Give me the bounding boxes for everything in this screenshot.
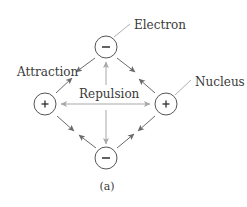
- attraction-label: Attraction: [16, 65, 79, 79]
- attraction-arrow-right-top: [139, 79, 155, 93]
- top-electron: [95, 36, 117, 58]
- electron-nucleus-diagram: Electron Nucleus Attraction Repulsion (a…: [0, 0, 247, 207]
- electron-leader-line: [114, 24, 130, 37]
- attraction-arrow-top-right: [117, 58, 135, 72]
- attraction-arrow-left-bottom: [57, 116, 74, 131]
- repulsion-label: Repulsion: [79, 87, 140, 101]
- nucleus-leader-line: [175, 80, 191, 95]
- attraction-arrow-bottom-right: [117, 134, 134, 148]
- attraction-arrow-top-left: [76, 58, 95, 72]
- attraction-arrow-left-top: [56, 78, 72, 93]
- electron-label: Electron: [134, 18, 186, 32]
- right-nucleus: [155, 93, 177, 115]
- bottom-electron: [95, 147, 117, 169]
- nucleus-label: Nucleus: [195, 75, 245, 89]
- caption-label: (a): [99, 180, 114, 193]
- attraction-arrow-right-bottom: [138, 116, 155, 131]
- attraction-arrow-bottom-left: [79, 135, 96, 148]
- left-nucleus: [34, 93, 56, 115]
